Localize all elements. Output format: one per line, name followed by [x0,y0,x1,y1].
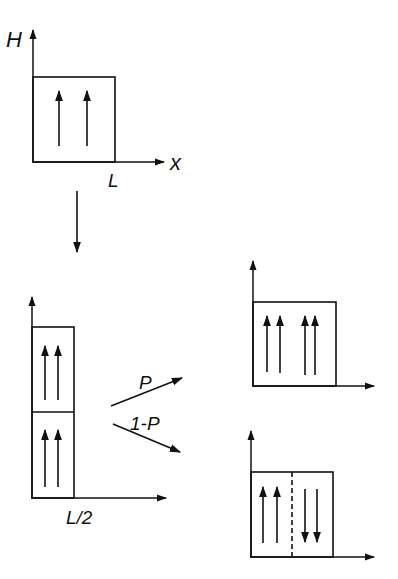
y-axis-label: H [6,27,22,52]
branch-p-label: P [139,372,152,393]
result-aligned-panel [253,261,374,387]
branch-arrows: P 1-P [111,372,182,452]
branch-1-minus-p-label: 1-P [130,413,160,434]
domain-box [33,77,115,162]
x-tick-label-L-half: L/2 [66,507,93,528]
x-tick-label-L: L [108,170,119,191]
diagram-canvas: H x L L/2 P 1-P [0,0,398,579]
result-anti-aligned-panel [251,431,374,558]
aligned-domain-box [253,302,336,386]
initial-state-panel: H x L [6,27,182,191]
x-axis-label: x [169,150,182,175]
